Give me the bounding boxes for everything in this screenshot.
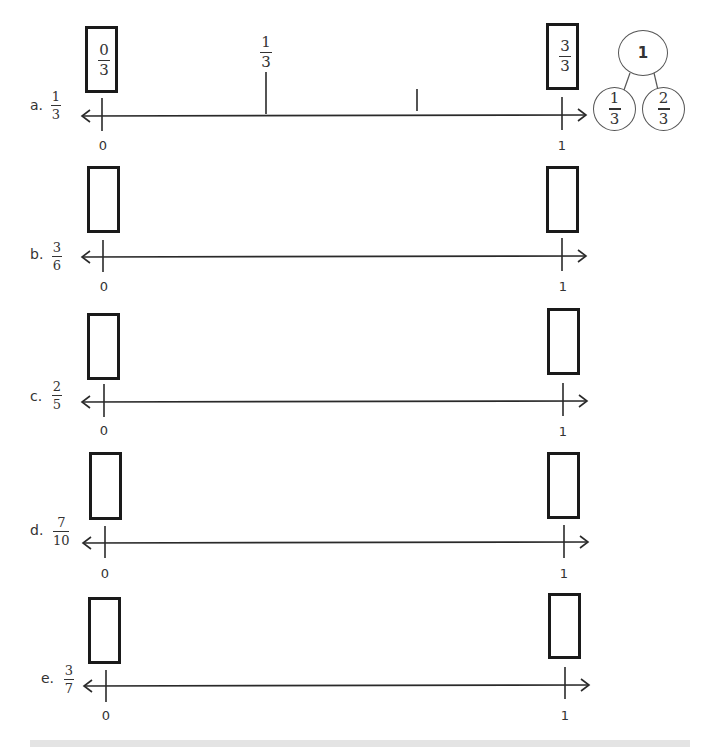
box-fraction: 3 3: [559, 39, 571, 74]
axis-label-zero: 0: [99, 138, 107, 153]
bond-part-circle: 1 3: [593, 87, 636, 131]
left-endpoint-box[interactable]: [87, 166, 120, 233]
bond-part-circle: 2 3: [642, 87, 685, 131]
axis-label-one: 1: [560, 566, 568, 581]
number-line-b: [82, 238, 586, 272]
bond-whole-circle: 1: [618, 30, 668, 76]
problem-fraction: 3 6: [52, 241, 62, 272]
axis-label-one: 1: [561, 708, 569, 723]
left-endpoint-box[interactable]: 0 3: [85, 26, 118, 93]
axis-label-zero: 0: [101, 566, 109, 581]
axis-label-zero: 0: [100, 423, 108, 438]
number-line-c: [82, 383, 587, 417]
tick-label-one-third: 1 3: [260, 35, 272, 70]
axis-label-one: 1: [558, 138, 566, 153]
box-fraction: 0 3: [98, 43, 110, 78]
right-endpoint-box[interactable]: 3 3: [546, 23, 579, 90]
axis-label-one: 1: [559, 279, 567, 294]
problem-fraction: 2 5: [52, 380, 62, 411]
problem-letter: d.: [30, 522, 43, 538]
right-endpoint-box[interactable]: [547, 308, 580, 375]
problem-fraction: 1 3: [51, 90, 61, 121]
footer-divider: [30, 740, 690, 747]
right-endpoint-box[interactable]: [548, 593, 581, 659]
problem-letter: b.: [30, 246, 43, 262]
axis-label-zero: 0: [100, 279, 108, 294]
problem-letter: a.: [30, 97, 43, 113]
number-line-d: [83, 525, 588, 558]
left-endpoint-box[interactable]: [88, 597, 121, 664]
left-endpoint-box[interactable]: [89, 452, 122, 520]
axis-label-one: 1: [559, 424, 567, 439]
axis-label-zero: 0: [102, 708, 110, 723]
right-endpoint-box[interactable]: [546, 166, 579, 233]
number-line-a: [82, 72, 586, 131]
number-line-e: [84, 667, 589, 702]
problem-fraction: 7 10: [53, 516, 70, 547]
problem-letter: e.: [41, 670, 54, 686]
left-endpoint-box[interactable]: [87, 313, 120, 380]
problem-fraction: 3 7: [64, 664, 74, 695]
right-endpoint-box[interactable]: [547, 452, 580, 519]
problem-letter: c.: [30, 388, 42, 404]
